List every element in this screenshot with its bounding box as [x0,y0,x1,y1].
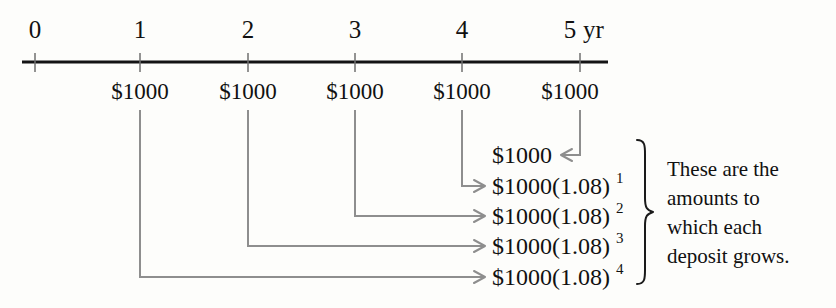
year-label-0: 0 [29,16,42,43]
timeline-diagram-page: 0 1 2 3 4 5 yr $1000 $1000 $1000 $1000 $… [0,0,836,308]
year-label-4: 4 [456,16,469,43]
grouping-brace [637,140,653,284]
amount-base-1: $1000 [492,142,552,168]
amount-row-2: $1000(1.08) 1 [492,170,624,199]
amount-base-3: $1000(1.08) [492,203,610,229]
amount-exponent-2: 1 [616,170,624,186]
deposit-label-year-3: $1000 [326,79,384,104]
connector-year-3 [355,110,483,216]
amount-row-4: $1000(1.08) 3 [492,230,624,259]
brace-icon [637,140,653,284]
year-label-2: 2 [242,16,255,43]
caption-line-2: amounts to [667,186,760,210]
year-label-3: 3 [349,16,362,43]
year-label-5: 5 [564,16,577,43]
annuity-timeline-diagram: 0 1 2 3 4 5 yr $1000 $1000 $1000 $1000 $… [0,0,836,308]
caption-line-4: deposit grows. [667,244,790,268]
connector-year-4 [462,110,483,186]
year-unit-label: yr [583,16,605,43]
amount-exponent-4: 3 [616,230,624,246]
amount-row-1: $1000 [492,142,552,168]
amount-exponent-3: 2 [616,200,624,216]
timeline-axis-group [22,53,608,72]
amount-base-5: $1000(1.08) [492,264,610,290]
amount-rows-group: $1000 $1000(1.08) 1 $1000(1.08) 2 $1000(… [492,142,624,290]
amount-base-2: $1000(1.08) [492,173,610,199]
connector-year-5 [562,110,580,155]
year-label-1: 1 [134,16,147,43]
connector-year-1 [140,110,483,277]
deposit-labels-group: $1000 $1000 $1000 $1000 $1000 [111,79,599,104]
deposit-label-year-2: $1000 [219,79,277,104]
year-labels-group: 0 1 2 3 4 5 yr [29,16,605,43]
amount-base-4: $1000(1.08) [492,233,610,259]
caption-group: These are the amounts to which each depo… [667,157,790,268]
caption-line-3: which each [667,215,763,239]
deposit-label-year-4: $1000 [433,79,491,104]
amount-exponent-5: 4 [616,261,624,277]
caption-line-1: These are the [667,157,779,181]
amount-row-5: $1000(1.08) 4 [492,261,624,290]
connector-year-2 [248,110,483,246]
deposit-label-year-5: $1000 [541,79,599,104]
amount-row-3: $1000(1.08) 2 [492,200,624,229]
deposit-label-year-1: $1000 [111,79,169,104]
